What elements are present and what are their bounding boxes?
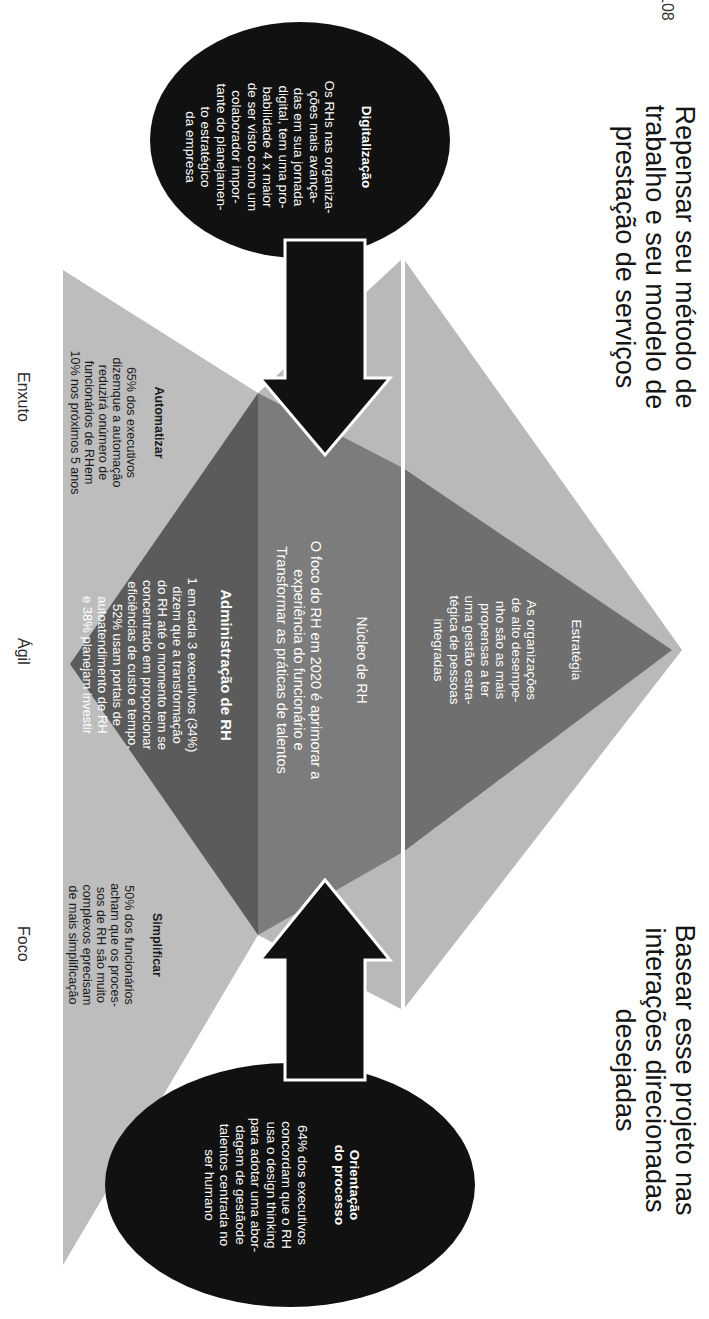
page-number: 108: [658, 0, 676, 21]
estrategia-heading: Estratégia: [569, 560, 585, 740]
nucleo-heading: Núcleo de RH: [354, 465, 370, 855]
automatizar-heading: Automatizar: [152, 335, 166, 510]
simplificar-text: Simplificar 50% dos funcionários acham q…: [52, 855, 178, 1035]
simplificar-body: 50% dos funcionários acham que os proces…: [66, 855, 136, 1035]
nucleo-text: Núcleo de RH O foco do RH em 2020 é apri…: [258, 465, 385, 855]
automatizar-text: Automatizar 65% dos executivos dizemque …: [54, 335, 180, 510]
orientacao-heading: Orientação do processo: [332, 1085, 363, 1285]
nucleo-body: O foco do RH em 2020 é aprimorar a exper…: [274, 465, 325, 855]
orientacao-body: 64% dos executivos concordam que o RH us…: [202, 1085, 311, 1285]
administracao-text: Administração de RH 1 em cada 3 executiv…: [65, 545, 250, 785]
administracao-body: 1 em cada 3 executivos (34%) dizem que a…: [81, 545, 201, 785]
digitalizacao-heading: Digitalização: [359, 62, 375, 232]
estrategia-text: Estratégia As organizações de alto desem…: [416, 560, 601, 740]
right-title: Basear esse projeto nas interações direc…: [610, 910, 700, 1230]
digitalizacao-text: Digitalização Os RHs nas organiza- ções …: [167, 62, 390, 232]
administracao-heading: Administração de RH: [219, 545, 235, 785]
orientacao-text: Orientação do processo 64% dos executivo…: [186, 1085, 378, 1285]
axis-label-enxuto: Enxuto: [14, 372, 32, 422]
axis-label-agil: Ágil: [14, 638, 32, 665]
axis-label-foco: Foco: [14, 926, 32, 962]
automatizar-body: 65% dos executivos dizemque a automação …: [68, 335, 138, 510]
digitalizacao-body: Os RHs nas organiza- ções mais avança- d…: [183, 62, 338, 232]
estrategia-body: As organizações de alto desempe- nho são…: [431, 560, 540, 740]
left-title: Repensar seu método de trabalho e seu mo…: [610, 82, 700, 432]
simplificar-heading: Simplificar: [150, 855, 164, 1035]
